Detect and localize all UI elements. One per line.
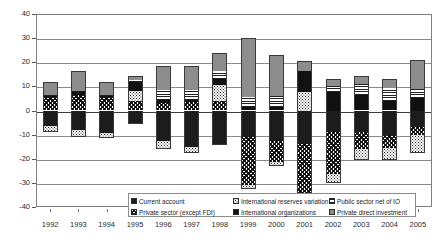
bar-segment [269, 141, 284, 163]
bar-group[interactable] [354, 14, 369, 207]
bar-segment [297, 111, 312, 145]
bar-group[interactable] [156, 14, 171, 207]
bar-segment [410, 127, 425, 134]
bar-segment [43, 126, 58, 132]
legend-item[interactable]: Private direct investment [329, 207, 417, 217]
stacked-bar-chart: 403020100-10-20-30-40 199219931994199519… [0, 0, 439, 242]
x-axis-tick-label: 2000 [268, 220, 285, 229]
bar-segment [410, 98, 425, 110]
bar-group[interactable] [184, 14, 199, 207]
legend-column: Public sector net of IOPrivate direct in… [329, 196, 417, 218]
bar-segment [212, 71, 227, 79]
bar-segment [241, 111, 256, 138]
bar-segment [184, 100, 199, 102]
bar-segment [354, 84, 369, 95]
bar-segment [184, 102, 199, 110]
legend-label: Private sector (except FDI) [139, 209, 215, 216]
bar-segment [212, 101, 227, 111]
bar-segment [382, 88, 397, 101]
x-axis-tick-label: 1999 [240, 220, 257, 229]
y-axis-tick-label: 30 [6, 34, 30, 42]
bar-group[interactable] [212, 14, 227, 207]
x-axis-tick-label: 1993 [70, 220, 87, 229]
legend-column: Current accountPrivate sector (except FD… [131, 196, 235, 218]
x-axis-tick-mark [418, 209, 419, 212]
bar-segment [128, 82, 143, 92]
x-axis-tick-label: 1998 [212, 220, 229, 229]
bar-segment [71, 130, 86, 137]
bar-segment [354, 149, 369, 160]
bar-segment [410, 111, 425, 128]
bar-segment [71, 71, 86, 92]
legend-item[interactable]: Private sector (except FDI) [131, 207, 235, 217]
y-axis-tick-label: 10 [6, 82, 30, 90]
bar-group[interactable] [241, 14, 256, 207]
y-axis-tick-label: 20 [6, 58, 30, 66]
bar-group[interactable] [297, 14, 312, 207]
x-axis-tick-label: 1994 [98, 220, 115, 229]
bar-segment [184, 111, 199, 147]
bar-segment [99, 133, 114, 138]
legend-swatch-icon [329, 198, 335, 204]
bar-group[interactable] [71, 14, 86, 207]
bars-layer [36, 14, 432, 207]
bar-segment [241, 185, 256, 189]
bar-group[interactable] [269, 14, 284, 207]
bar-group[interactable] [99, 14, 114, 207]
bar-segment [354, 95, 369, 111]
y-axis-tick-label: -40 [6, 203, 30, 211]
bar-segment [354, 132, 369, 149]
legend-swatch-icon [233, 209, 239, 215]
bar-group[interactable] [326, 14, 341, 207]
bar-segment [326, 86, 341, 92]
bar-segment [71, 95, 86, 111]
bar-segment [156, 141, 171, 149]
bar-segment [326, 79, 341, 86]
legend-item[interactable]: Public sector net of IO [329, 196, 417, 206]
bar-segment [99, 95, 114, 96]
bar-segment [241, 137, 256, 185]
bar-group[interactable] [43, 14, 58, 207]
y-axis-tick-label: 40 [6, 10, 30, 18]
bar-segment [43, 82, 58, 95]
bar-segment [297, 61, 312, 71]
bar-segment [382, 101, 397, 111]
bar-segment [212, 79, 227, 85]
legend-item[interactable]: Current account [131, 196, 235, 206]
bar-segment [43, 111, 58, 127]
bar-segment [354, 76, 369, 84]
bar-group[interactable] [410, 14, 425, 207]
bar-segment [212, 53, 227, 71]
x-axis-tick-label: 1992 [42, 220, 59, 229]
y-axis-tick-mark [32, 207, 36, 208]
bar-segment [269, 162, 284, 166]
bar-segment [269, 111, 284, 141]
bar-segment [99, 96, 114, 97]
bar-segment [326, 132, 341, 174]
legend-label: Public sector net of IO [337, 198, 400, 205]
bar-group[interactable] [128, 14, 143, 207]
x-axis-tick-label: 2004 [381, 220, 398, 229]
bar-segment [128, 101, 143, 111]
legend-swatch-icon [131, 198, 137, 204]
x-axis-tick-label: 2005 [410, 220, 427, 229]
bar-segment [410, 135, 425, 153]
bar-group[interactable] [382, 14, 397, 207]
y-axis-tick-label: -20 [6, 155, 30, 163]
x-axis-tick-label: 2001 [296, 220, 313, 229]
bar-segment [269, 96, 284, 107]
bar-segment [71, 111, 86, 130]
legend-label: International reserves variation [241, 198, 328, 205]
bar-segment [43, 95, 58, 96]
bar-segment [71, 92, 86, 94]
x-axis-tick-label: 1996 [155, 220, 172, 229]
bar-segment [326, 92, 341, 110]
bar-segment [71, 91, 86, 92]
bar-segment [128, 76, 143, 81]
x-axis-tick-label: 2002 [325, 220, 342, 229]
bar-segment [99, 97, 114, 110]
bar-segment [382, 79, 397, 87]
bar-segment [128, 111, 143, 124]
bar-segment [156, 90, 171, 100]
bar-segment [156, 100, 171, 104]
